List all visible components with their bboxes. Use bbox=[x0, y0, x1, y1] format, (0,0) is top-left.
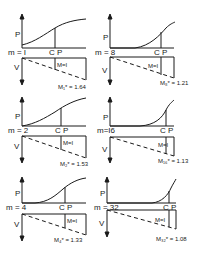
cp-label: C P bbox=[160, 127, 173, 135]
moment-label: M=I bbox=[57, 62, 67, 68]
v-axis-label: V bbox=[14, 221, 19, 229]
cp-label: C P bbox=[55, 127, 68, 135]
mstar-label: M₃₂* = 1.08 bbox=[156, 236, 187, 242]
p-axis-label: P bbox=[15, 31, 20, 39]
m-label: m = I bbox=[8, 49, 26, 57]
v-axis-label: V bbox=[102, 67, 107, 75]
moment-label: M=I bbox=[63, 140, 73, 146]
m-label: m=I6 bbox=[97, 127, 115, 135]
v-axis-label: V bbox=[102, 146, 107, 154]
m-label: m = 4 bbox=[6, 204, 26, 212]
cp-label: C P bbox=[154, 49, 167, 57]
v-axis-label: V bbox=[99, 220, 104, 228]
moment-label: M=I bbox=[158, 142, 168, 148]
moment-label: M=I bbox=[67, 218, 77, 224]
m-label: m = 8 bbox=[95, 49, 115, 57]
cp-label: C P bbox=[49, 49, 62, 57]
mstar-label: M₈* = 1.21 bbox=[160, 80, 188, 86]
m-label: m = 32 bbox=[94, 204, 119, 212]
mstar-label: M₄* = 1.33 bbox=[54, 237, 82, 243]
moment-label: M=I bbox=[155, 217, 165, 223]
p-axis-label: P bbox=[103, 34, 108, 42]
p-axis-label: P bbox=[15, 113, 20, 121]
panel-m2 bbox=[20, 97, 86, 163]
p-axis-label: P bbox=[15, 190, 20, 198]
cp-label: C P bbox=[59, 204, 72, 212]
moment-label: M=I bbox=[148, 63, 158, 69]
v-axis-label: V bbox=[14, 143, 19, 151]
p-axis-label: P bbox=[103, 114, 108, 122]
v-axis-label: V bbox=[14, 64, 19, 72]
mstar-label: M₁₆* = 1.13 bbox=[158, 158, 188, 164]
cp-label: C P bbox=[163, 204, 176, 212]
mstar-label: M₁* = 1.64 bbox=[58, 84, 86, 90]
p-axis-label: P bbox=[100, 190, 105, 198]
m-label: m = 2 bbox=[8, 127, 28, 135]
mstar-label: M₂* = 1.53 bbox=[60, 161, 88, 167]
panel-m4 bbox=[20, 177, 86, 241]
